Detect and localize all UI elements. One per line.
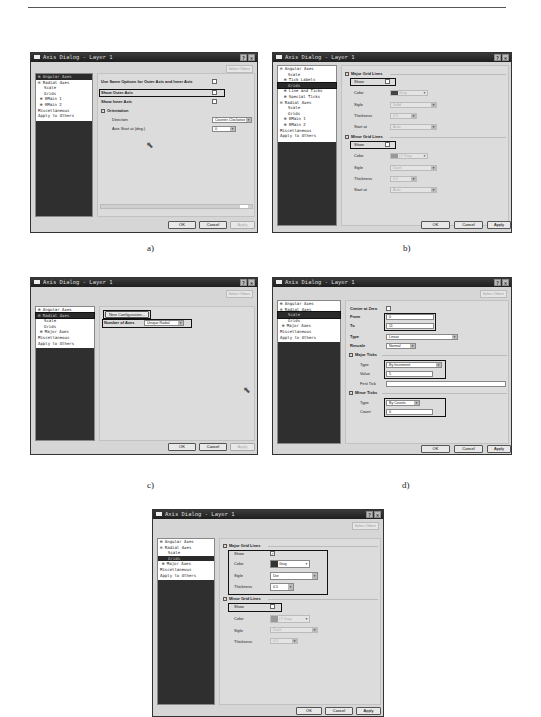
major-grid-group[interactable]: Major Grid Lines bbox=[223, 543, 261, 549]
chevron-down-icon: ▼ bbox=[414, 401, 419, 405]
apply-button[interactable]: Apply bbox=[356, 707, 381, 715]
close-button[interactable]: × bbox=[502, 54, 509, 61]
minor-style-select[interactable]: Dash▼ bbox=[270, 627, 318, 633]
center-zero-checkbox[interactable] bbox=[386, 306, 391, 311]
help-button[interactable]: ? bbox=[240, 54, 247, 61]
value-input[interactable]: 5 bbox=[386, 371, 433, 377]
same-options-checkbox[interactable] bbox=[212, 79, 217, 84]
major-color-select[interactable]: Gray▼ bbox=[270, 560, 310, 568]
help-button[interactable]: ? bbox=[494, 279, 501, 286]
major-grid-group[interactable]: Major Grid Lines bbox=[345, 71, 383, 77]
chevron-down-icon: ▼ bbox=[431, 166, 436, 170]
collapse-icon bbox=[345, 135, 349, 139]
value-label: Value bbox=[360, 371, 370, 377]
tree-item[interactable]: Apply to Others bbox=[36, 341, 94, 347]
minor-show-checkbox[interactable] bbox=[385, 142, 390, 147]
close-button[interactable]: × bbox=[502, 279, 509, 286]
minor-color-select[interactable]: LT Gray▼ bbox=[270, 615, 310, 623]
minor-grid-group[interactable]: Minor Grid Lines bbox=[345, 134, 383, 140]
type-select[interactable]: Linear▼ bbox=[386, 334, 458, 340]
major-color-select[interactable]: Gray▼ bbox=[390, 90, 428, 96]
major-start-select[interactable]: Auto▼ bbox=[390, 124, 437, 130]
select-others-button[interactable]: Select Others bbox=[226, 290, 253, 298]
group-divider bbox=[268, 599, 378, 600]
select-others-button[interactable]: Select Others bbox=[352, 522, 379, 530]
close-button[interactable]: × bbox=[248, 279, 255, 286]
minor-style-select[interactable]: Dash▼ bbox=[390, 165, 437, 171]
major-thickness-select[interactable]: 0.5▼ bbox=[270, 583, 294, 591]
orientation-group[interactable]: Orientation bbox=[101, 108, 128, 114]
rescale-select[interactable]: Normal▼ bbox=[386, 343, 416, 349]
title-bar: Axis Dialog - Layer 1 ?× bbox=[31, 53, 257, 62]
ok-button[interactable]: OK bbox=[168, 443, 196, 451]
cancel-button[interactable]: Cancel bbox=[325, 707, 353, 715]
select-others-button[interactable]: Select Others bbox=[480, 290, 507, 298]
minor-style-label: Style bbox=[354, 165, 363, 171]
cancel-button[interactable]: Cancel bbox=[199, 443, 227, 451]
apply-button[interactable]: Apply bbox=[487, 445, 511, 453]
major-thickness-select[interactable]: 0.5▼ bbox=[390, 113, 417, 119]
ok-button[interactable]: OK bbox=[421, 221, 450, 229]
major-show-checkbox[interactable] bbox=[385, 79, 390, 84]
ok-button[interactable]: OK bbox=[421, 445, 450, 453]
show-outer-checkbox[interactable] bbox=[212, 90, 217, 95]
chevron-down-icon: ▼ bbox=[312, 573, 317, 579]
from-label: From bbox=[350, 314, 360, 320]
horizontal-scrollbar[interactable] bbox=[100, 204, 253, 209]
show-inner-checkbox[interactable] bbox=[212, 99, 217, 104]
minor-grid-group[interactable]: Minor Grid Lines bbox=[223, 596, 261, 602]
chevron-down-icon: ▼ bbox=[411, 114, 416, 118]
ok-button[interactable]: OK bbox=[168, 221, 196, 229]
major-show-checkbox[interactable]: ✓ bbox=[270, 551, 275, 556]
apply-button[interactable]: Apply bbox=[487, 221, 511, 229]
tree-item[interactable]: Apply to Others bbox=[36, 113, 92, 119]
apply-button[interactable]: Apply bbox=[230, 443, 255, 451]
help-button[interactable]: ? bbox=[494, 54, 501, 61]
axis-start-select[interactable]: 0▼ bbox=[212, 126, 236, 132]
minor-start-select[interactable]: Auto▼ bbox=[390, 187, 437, 193]
select-others-button[interactable]: Select Others bbox=[226, 65, 253, 73]
count-input[interactable]: 0 bbox=[386, 409, 433, 415]
tree-empty-area bbox=[158, 580, 214, 704]
cancel-button[interactable]: Cancel bbox=[454, 221, 483, 229]
window-icon bbox=[276, 280, 282, 284]
scroll-thumb[interactable] bbox=[240, 205, 248, 208]
help-button[interactable]: ? bbox=[366, 511, 373, 518]
first-tick-input[interactable] bbox=[386, 381, 506, 387]
count-label: Count bbox=[360, 409, 371, 415]
cancel-button[interactable]: Cancel bbox=[454, 445, 483, 453]
minor-thickness-select[interactable]: 0.5▼ bbox=[270, 638, 298, 644]
chevron-down-icon: ▼ bbox=[411, 177, 416, 181]
new-configuration-button[interactable]: New Configuration... bbox=[105, 311, 149, 318]
minor-ticks-group[interactable]: Minor Ticks bbox=[349, 390, 377, 396]
help-button[interactable]: ? bbox=[240, 279, 247, 286]
major-show-label: Show bbox=[234, 551, 244, 557]
major-ticks-group[interactable]: Major Ticks bbox=[349, 352, 377, 358]
num-axes-select[interactable]: Unique Radial▼ bbox=[144, 320, 184, 326]
minor-type-select[interactable]: By Counts▼ bbox=[386, 400, 420, 406]
tree-item[interactable]: Apply to Others bbox=[278, 335, 340, 341]
collapse-icon bbox=[223, 544, 227, 548]
close-button[interactable]: × bbox=[248, 54, 255, 61]
minor-color-select[interactable]: LT Gray▼ bbox=[390, 153, 428, 159]
tree-item[interactable]: Apply to Others bbox=[158, 573, 214, 579]
cancel-button[interactable]: Cancel bbox=[199, 221, 227, 229]
major-style-select[interactable]: Solid▼ bbox=[390, 102, 437, 108]
minor-thickness-select[interactable]: 0.5▼ bbox=[390, 176, 417, 182]
direction-select[interactable]: Counter-Clockwise▼ bbox=[212, 117, 252, 123]
to-input[interactable]: 11 bbox=[386, 323, 434, 329]
orientation-label: Orientation bbox=[107, 108, 128, 113]
close-button[interactable]: × bbox=[374, 511, 381, 518]
apply-button[interactable]: Apply bbox=[230, 221, 255, 229]
window-icon bbox=[156, 512, 162, 516]
from-input[interactable]: 0 bbox=[386, 314, 434, 320]
title-bar: Axis Dialog - Layer 1 ?× bbox=[273, 53, 511, 62]
collapse-icon bbox=[349, 391, 353, 395]
ok-button[interactable]: OK bbox=[296, 707, 322, 715]
tree-item[interactable]: Apply to Others bbox=[278, 133, 336, 139]
minor-show-checkbox[interactable] bbox=[270, 604, 275, 609]
major-style-select[interactable]: Dot▼ bbox=[270, 572, 318, 580]
dialog-title: Axis Dialog - Layer 1 bbox=[165, 511, 235, 517]
major-type-label: Type bbox=[360, 362, 369, 368]
major-type-select[interactable]: By Increment▼ bbox=[386, 362, 442, 368]
